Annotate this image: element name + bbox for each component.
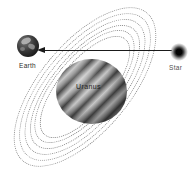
- earth-globe: [17, 35, 39, 57]
- earth-continent-patch: [20, 47, 25, 51]
- earth-label: Earth: [19, 62, 36, 69]
- star-dot: [170, 43, 188, 61]
- earth-continent-patch: [27, 43, 35, 50]
- uranus-diagram: Uranus Earth Star: [0, 0, 194, 174]
- arrowhead-icon: [37, 47, 45, 53]
- star-label: Star: [169, 64, 182, 71]
- uranus-label: Uranus: [76, 83, 101, 90]
- uranus-planet: [56, 59, 127, 124]
- line-of-sight: [44, 50, 172, 51]
